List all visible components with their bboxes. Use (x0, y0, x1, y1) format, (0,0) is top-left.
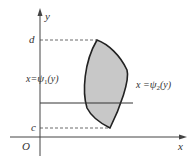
psi1-label: x=ψ1(y) (25, 72, 59, 86)
x-axis-label: x (177, 140, 183, 152)
d-label: d (29, 33, 35, 45)
origin-label: O (22, 140, 30, 152)
region-diagram: y x O d c x=ψ1(y) x =ψ2(y) (0, 0, 196, 164)
psi2-label: x =ψ2(y) (135, 78, 172, 92)
shaded-region (84, 40, 127, 128)
y-axis-label: y (44, 10, 50, 22)
x-axis-arrow-icon (179, 135, 187, 140)
c-label: c (31, 121, 36, 133)
y-axis-arrow-icon (38, 8, 43, 16)
